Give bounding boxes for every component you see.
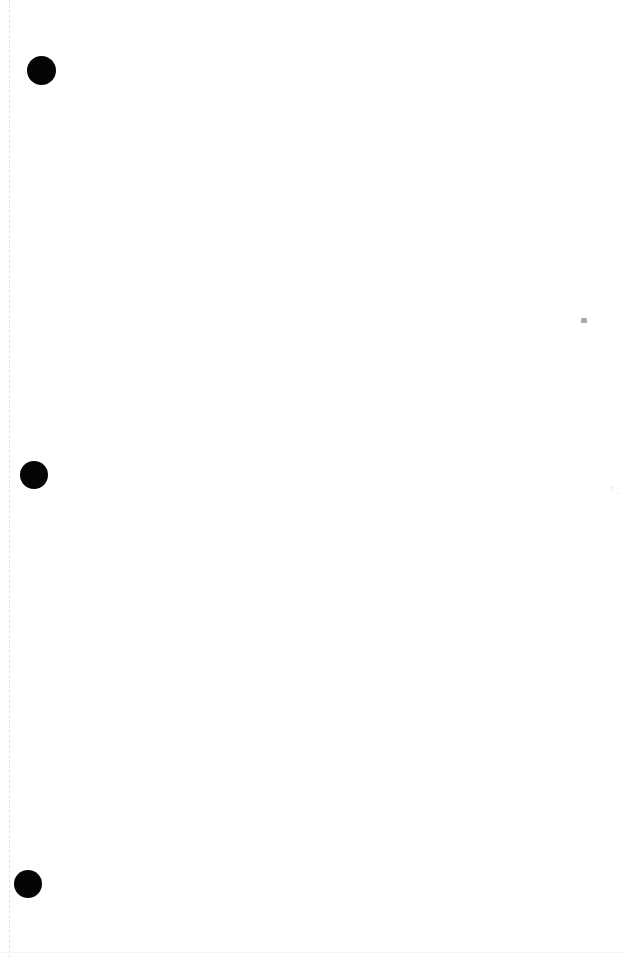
smudge-artifact xyxy=(581,318,587,323)
dashed-margin-line xyxy=(9,0,10,958)
scanned-page: Scanned blank page with margin marks xyxy=(0,0,624,958)
ink-dot-mark xyxy=(20,461,48,489)
speck-artifact xyxy=(611,486,614,489)
scan-band-artifact xyxy=(0,952,624,953)
ink-dot-mark xyxy=(14,870,42,898)
ink-dot-mark xyxy=(27,56,56,85)
speck-artifact xyxy=(617,492,619,494)
